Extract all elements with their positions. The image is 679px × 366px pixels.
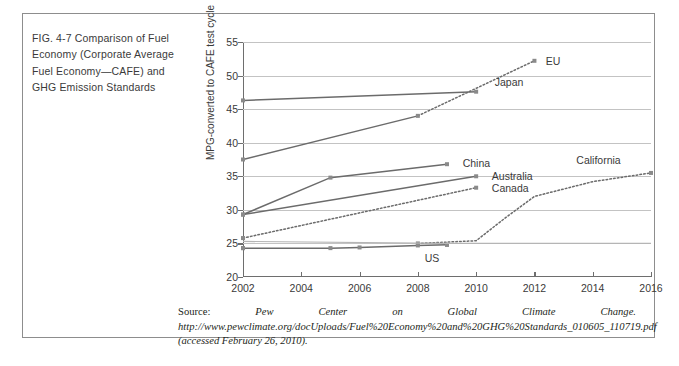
marker-china-mid xyxy=(328,176,332,180)
marker-australia-end xyxy=(474,174,478,178)
marker-australia-start xyxy=(241,213,245,217)
series-label-australia: Australia xyxy=(492,170,533,182)
source-prefix: Source: xyxy=(178,306,255,317)
marker-canada-end xyxy=(474,186,478,190)
marker-japan-start xyxy=(241,98,245,102)
y-tick-label-50: 50 xyxy=(226,70,238,82)
y-tick-label-55: 55 xyxy=(226,36,238,48)
marker-us-2 xyxy=(358,245,362,249)
series-line-eu-solid xyxy=(243,116,418,160)
source-note: Source: Pew Center on Global Climate Cha… xyxy=(178,305,636,349)
marker-canada-start xyxy=(241,236,245,240)
series-label-us: US xyxy=(425,252,440,264)
y-tick-label-35: 35 xyxy=(226,170,238,182)
series-line-us-upper xyxy=(243,241,651,243)
x-tick-2016 xyxy=(651,272,652,277)
marker-eu-mid xyxy=(416,114,420,118)
x-tick-label-2002: 2002 xyxy=(231,282,254,294)
x-tick-label-2006: 2006 xyxy=(348,282,371,294)
series-line-eu-dotted xyxy=(418,61,535,116)
marker-eu-start xyxy=(241,158,245,162)
series-line-china xyxy=(243,164,447,214)
chart-plot-area: 2025303540455055 20022004200620082010201… xyxy=(243,42,651,277)
y-tick-label-25: 25 xyxy=(226,237,238,249)
series-label-canada: Canada xyxy=(492,182,529,194)
y-tick-label-45: 45 xyxy=(226,103,238,115)
series-label-japan: Japan xyxy=(495,76,524,88)
figure-caption: FIG. 4-7 Comparison of Fuel Economy (Cor… xyxy=(32,30,180,96)
series-label-eu: EU xyxy=(546,55,561,67)
series-line-california xyxy=(418,173,651,244)
x-tick-label-2016: 2016 xyxy=(639,282,662,294)
marker-us-3 xyxy=(416,243,420,247)
x-tick-label-2012: 2012 xyxy=(523,282,546,294)
marker-china-end xyxy=(445,162,449,166)
series-line-japan xyxy=(243,92,476,101)
x-tick-label-2014: 2014 xyxy=(581,282,604,294)
x-tick-label-2004: 2004 xyxy=(290,282,313,294)
y-tick-label-30: 30 xyxy=(226,204,238,216)
marker-eu-end xyxy=(532,59,536,63)
x-tick-label-2008: 2008 xyxy=(406,282,429,294)
y-axis-title: MPG-converted to CAFE test cycle xyxy=(205,5,216,160)
marker-california-end xyxy=(649,171,653,175)
series-label-china: China xyxy=(463,157,490,169)
marker-us-1 xyxy=(328,246,332,250)
y-tick-label-40: 40 xyxy=(226,137,238,149)
series-label-california: California xyxy=(576,154,620,166)
y-tick-20 xyxy=(238,277,243,278)
marker-japan-end xyxy=(474,90,478,94)
x-tick-label-2010: 2010 xyxy=(464,282,487,294)
marker-us-0 xyxy=(241,246,245,250)
